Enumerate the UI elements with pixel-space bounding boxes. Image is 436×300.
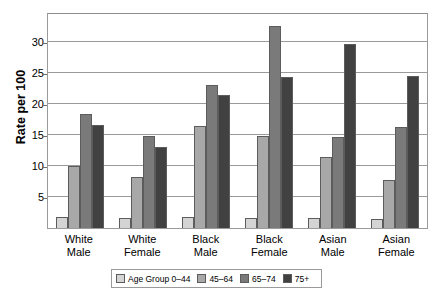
x-axis-label-line: Male bbox=[174, 246, 238, 259]
x-axis-label-4: AsianMale bbox=[301, 233, 365, 267]
x-axis-label-line: Black bbox=[174, 233, 238, 246]
legend-swatch-icon bbox=[283, 274, 292, 283]
bar[interactable] bbox=[371, 219, 383, 228]
legend-label: 45–64 bbox=[209, 274, 233, 284]
legend-item-2[interactable]: 65–74 bbox=[240, 274, 276, 284]
y-axis-tick-labels: 51015202530 bbox=[0, 0, 44, 300]
plot-area bbox=[47, 13, 428, 229]
bar[interactable] bbox=[383, 180, 395, 228]
x-axis-label-line: Asian bbox=[301, 233, 365, 246]
legend-swatch-icon bbox=[197, 274, 206, 283]
x-axis-label-line: Female bbox=[238, 246, 302, 259]
x-axis-label-line: White bbox=[47, 233, 111, 246]
y-tick-label-15: 15 bbox=[4, 130, 44, 141]
bar[interactable] bbox=[257, 136, 269, 228]
legend-item-3[interactable]: 75+ bbox=[283, 274, 309, 284]
legend-swatch-icon bbox=[116, 274, 125, 283]
y-tick-label-10: 10 bbox=[4, 161, 44, 172]
bar-group bbox=[364, 14, 427, 228]
bar[interactable] bbox=[320, 157, 332, 228]
legend-item-0[interactable]: Age Group 0–44 bbox=[116, 274, 190, 284]
x-axis-label-line: Male bbox=[47, 246, 111, 259]
bar[interactable] bbox=[119, 218, 131, 228]
bar[interactable] bbox=[281, 77, 293, 228]
bar[interactable] bbox=[155, 147, 167, 228]
bar[interactable] bbox=[92, 125, 104, 228]
legend-item-1[interactable]: 45–64 bbox=[197, 274, 233, 284]
bar-chart: Rate per 100 51015202530 WhiteMaleWhiteF… bbox=[0, 0, 436, 300]
x-axis-label-line: Male bbox=[301, 246, 365, 259]
y-tick-label-25: 25 bbox=[4, 68, 44, 79]
x-axis-label-1: WhiteFemale bbox=[111, 233, 175, 267]
chart-legend: Age Group 0–4445–6465–7475+ bbox=[111, 269, 322, 288]
x-axis-label-line: Female bbox=[365, 246, 429, 259]
bar[interactable] bbox=[131, 177, 143, 228]
bar[interactable] bbox=[308, 218, 320, 228]
x-axis-label-line: White bbox=[111, 233, 175, 246]
legend-label: 65–74 bbox=[252, 274, 276, 284]
x-axis-label-line: Female bbox=[111, 246, 175, 259]
bar[interactable] bbox=[344, 44, 356, 228]
bar-group bbox=[111, 14, 174, 228]
bar[interactable] bbox=[332, 137, 344, 228]
bar-group bbox=[48, 14, 111, 228]
x-axis-label-line: Asian bbox=[365, 233, 429, 246]
x-axis-label-line: Black bbox=[238, 233, 302, 246]
x-axis-label-5: AsianFemale bbox=[365, 233, 429, 267]
bar-group bbox=[301, 14, 364, 228]
bar[interactable] bbox=[245, 218, 257, 228]
bar[interactable] bbox=[143, 136, 155, 228]
bar[interactable] bbox=[68, 166, 80, 228]
bar-group bbox=[174, 14, 237, 228]
x-axis-label-2: BlackMale bbox=[174, 233, 238, 267]
legend-label: Age Group 0–44 bbox=[128, 274, 190, 284]
x-axis-label-3: BlackFemale bbox=[238, 233, 302, 267]
bar-group bbox=[238, 14, 301, 228]
x-axis-category-labels: WhiteMaleWhiteFemaleBlackMaleBlackFemale… bbox=[47, 233, 428, 267]
legend-swatch-icon bbox=[240, 274, 249, 283]
bar[interactable] bbox=[218, 95, 230, 228]
bar[interactable] bbox=[56, 217, 68, 228]
legend-label: 75+ bbox=[295, 274, 309, 284]
bar[interactable] bbox=[80, 114, 92, 228]
y-tick-label-30: 30 bbox=[4, 37, 44, 48]
bar[interactable] bbox=[395, 127, 407, 228]
bar[interactable] bbox=[182, 217, 194, 228]
bar[interactable] bbox=[269, 26, 281, 228]
y-tick-label-20: 20 bbox=[4, 99, 44, 110]
y-tick-label-5: 5 bbox=[4, 192, 44, 203]
bar[interactable] bbox=[407, 76, 419, 228]
bar[interactable] bbox=[194, 126, 206, 228]
bars-layer bbox=[48, 14, 427, 228]
x-axis-label-0: WhiteMale bbox=[47, 233, 111, 267]
bar[interactable] bbox=[206, 85, 218, 228]
